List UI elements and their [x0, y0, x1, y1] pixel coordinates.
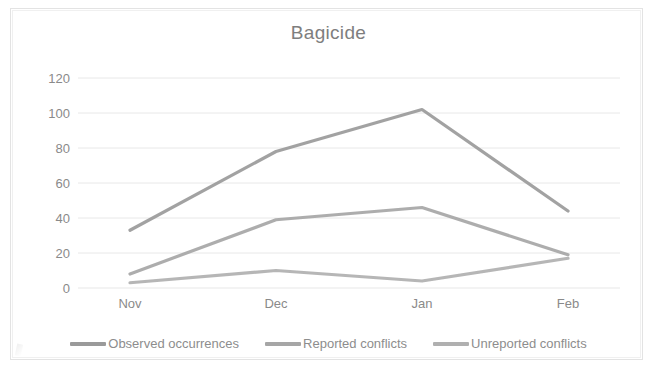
- legend-item[interactable]: Reported conflicts: [265, 336, 407, 351]
- plot-area: 020406080100120 NovDecJanFeb: [0, 0, 657, 372]
- x-axis-tick-label: Jan: [382, 296, 462, 311]
- legend-line-swatch-icon: [265, 342, 301, 346]
- legend-line-swatch-icon: [70, 342, 106, 346]
- legend-label: Reported conflicts: [303, 336, 407, 351]
- legend-label: Unreported conflicts: [471, 336, 587, 351]
- legend-item[interactable]: Unreported conflicts: [433, 336, 587, 351]
- x-axis-tick-label: Dec: [236, 296, 316, 311]
- x-axis-labels: NovDecJanFeb: [0, 0, 657, 372]
- chart-container: Bagicide 020406080100120 NovDecJanFeb Ob…: [0, 0, 657, 372]
- legend-item[interactable]: Observed occurrences: [70, 336, 239, 351]
- x-axis-tick-label: Nov: [90, 296, 170, 311]
- chart-legend: Observed occurrencesReported conflictsUn…: [0, 336, 657, 351]
- x-axis-tick-label: Feb: [528, 296, 608, 311]
- legend-line-swatch-icon: [433, 342, 469, 346]
- legend-label: Observed occurrences: [108, 336, 239, 351]
